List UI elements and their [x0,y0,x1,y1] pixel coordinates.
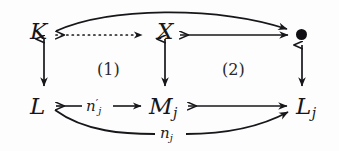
node-K: K [30,20,47,43]
region-label-1: (1) [97,62,120,78]
node-X: X [157,20,173,43]
node-Mj-subscript: j [173,105,177,121]
node-Lj-subscript: j [312,105,316,121]
node-Mj: Mj [149,95,177,120]
edge-label-n-j-subscript: j [170,132,173,143]
node-Lj: Lj [296,95,316,120]
node-Lj-base: L [296,93,311,119]
edge-label-n-prime-j-base: n [86,97,96,115]
edge-label-n-j-base: n [160,124,170,142]
edge-label-n-prime-j: n′j [84,98,103,116]
node-terminal-object-dot [296,29,307,40]
commutative-diagram: K X L Mj Lj n′j nj (1) (2) [0,0,339,151]
node-L: L [30,95,45,118]
region-label-2: (2) [222,62,245,78]
edge-label-n-prime-j-subscript: j [98,105,101,116]
edge-label-n-j: nj [158,126,175,143]
node-Mj-base: M [149,93,173,119]
